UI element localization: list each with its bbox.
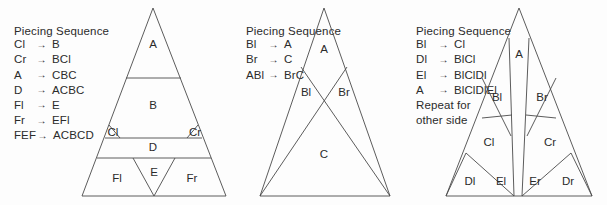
- triangle-outline-3: [446, 8, 592, 196]
- region-label-e: E: [150, 166, 158, 178]
- triangle-diagram-1: A B Cl Cr D Fl E Fr: [0, 0, 232, 205]
- region-label-dr: Dr: [562, 175, 574, 187]
- region-label-dl: Dl: [465, 175, 476, 187]
- region-label-a: A: [320, 43, 328, 55]
- triangle-diagram-3: A Bl Br Cl Cr Dl El Er Dr: [404, 0, 607, 205]
- region-label-el: El: [496, 175, 506, 187]
- region-label-cl: Cl: [108, 126, 119, 138]
- region-label-a: A: [515, 48, 523, 60]
- divider-br-right: [527, 78, 556, 136]
- divider-a-spike-right: [522, 38, 529, 196]
- region-label-br: Br: [536, 91, 548, 103]
- region-label-cr: Cr: [544, 136, 556, 148]
- panel-piecing-sequence-2: Piecing Sequence Bl → A Br → C ABl → BrC: [232, 0, 404, 205]
- region-label-fl: Fl: [112, 172, 122, 184]
- region-label-bl: Bl: [301, 86, 311, 98]
- panel-piecing-sequence-1: Piecing Sequence Cl → B Cr → BCl A → CBC…: [0, 0, 232, 205]
- region-label-b: B: [149, 99, 157, 111]
- panel-piecing-sequence-3: Piecing Sequence Bl → Cl Dl → BlCl El → …: [404, 0, 607, 205]
- region-label-c: C: [320, 148, 328, 160]
- divider-dr-er: [571, 153, 592, 196]
- divider-a-spike-left: [509, 38, 514, 196]
- region-label-cl: Cl: [484, 136, 495, 148]
- region-label-br: Br: [338, 86, 350, 98]
- divider-dl-el: [446, 153, 466, 196]
- region-label-d: D: [149, 141, 157, 153]
- region-label-er: Er: [529, 175, 541, 187]
- divider-bl-left: [482, 78, 511, 136]
- region-label-cr: Cr: [189, 126, 201, 138]
- region-label-bl: Bl: [492, 91, 502, 103]
- divider-bl-bottom: [482, 115, 512, 118]
- triangle-diagram-2: A Bl Br C: [232, 0, 404, 205]
- figure-canvas: Piecing Sequence Cl → B Cr → BCl A → CBC…: [0, 0, 607, 205]
- region-label-fr: Fr: [187, 172, 198, 184]
- divider-br-bottom: [526, 115, 556, 118]
- region-label-a: A: [149, 38, 157, 50]
